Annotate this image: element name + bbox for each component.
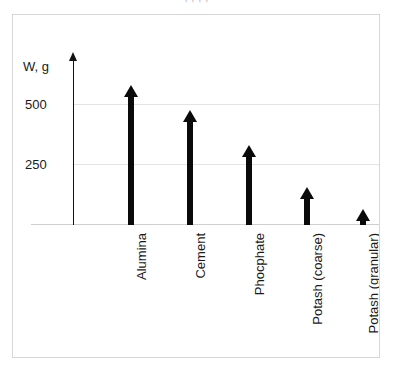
gridline-500 xyxy=(73,104,380,105)
y-axis-line xyxy=(73,59,74,225)
arrow-head-icon xyxy=(124,85,138,97)
arrow-head-icon xyxy=(356,209,370,221)
y-tick-label-250: 250 xyxy=(25,157,69,172)
gridline-250 xyxy=(73,164,380,165)
category-label: Alumina xyxy=(135,233,148,280)
category-label: Potash (granular) xyxy=(367,233,380,333)
arrow-head-icon xyxy=(183,110,197,122)
baseline xyxy=(31,224,380,225)
arrow-shaft xyxy=(128,95,134,225)
chart-frame: W, g 500 250 AluminaCementPhocphatePotas… xyxy=(12,14,380,358)
arrow-head-icon xyxy=(242,145,256,157)
arrow-head-icon xyxy=(300,187,314,199)
cut-off-caption-text: , , , , xyxy=(0,0,393,5)
arrow-shaft xyxy=(246,155,252,225)
arrow-shaft xyxy=(187,120,193,225)
arrow-shaft xyxy=(304,197,310,225)
category-label: Phocphate xyxy=(253,233,266,295)
y-tick-label-500: 500 xyxy=(25,97,69,112)
chart-screenshot: , , , , W, g 500 250 AluminaCementPhocph… xyxy=(0,0,393,373)
up-arrow-icon xyxy=(69,52,77,61)
plot-area: W, g 500 250 AluminaCementPhocphatePotas… xyxy=(13,15,380,358)
category-label: Potash (coarse) xyxy=(311,233,324,325)
y-axis-title: W, g xyxy=(23,59,49,74)
category-label: Cement xyxy=(194,233,207,279)
